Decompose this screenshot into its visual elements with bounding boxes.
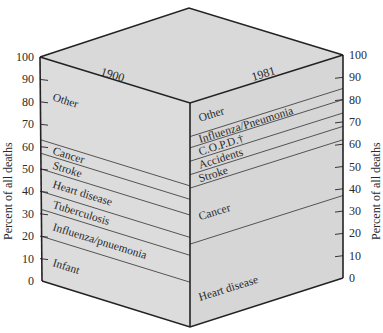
left-axis-tick-label: 20 xyxy=(22,229,34,243)
left-axis-tick-label: 0 xyxy=(28,274,34,288)
right-axis-title: Percent of all deaths xyxy=(369,142,383,240)
left-axis-tick-label: 70 xyxy=(22,117,34,131)
left-axis-tick-label: 90 xyxy=(22,72,34,86)
right-axis-tick-label: 40 xyxy=(349,182,361,196)
right-axis-tick-label: 80 xyxy=(349,93,361,107)
left-axis-tick-label: 40 xyxy=(22,184,34,198)
cube-diagram: InfantInfluenza/pnuemoniaTuberculosisHea… xyxy=(0,0,383,333)
right-axis-tick-label: 50 xyxy=(349,160,361,174)
right-axis-tick-label: 20 xyxy=(349,226,361,240)
right-axis-tick-label: 10 xyxy=(349,249,361,263)
right-axis-tick-label: 60 xyxy=(349,137,361,151)
right-axis-tick-label: 70 xyxy=(349,115,361,129)
right-axis-tick-label: 30 xyxy=(349,204,361,218)
right-axis-tick-label: 90 xyxy=(349,70,361,84)
left-axis-tick-label: 30 xyxy=(22,207,34,221)
left-axis-tick-label: 50 xyxy=(22,162,34,176)
cube-chart: InfantInfluenza/pnuemoniaTuberculosisHea… xyxy=(0,0,383,333)
left-axis-tick-label: 10 xyxy=(22,252,34,266)
right-axis-tick-label: 0 xyxy=(349,271,355,285)
left-axis-tick-label: 100 xyxy=(16,50,34,64)
left-axis-tick-label: 60 xyxy=(22,140,34,154)
left-axis-title: Percent of all deaths xyxy=(1,142,15,240)
right-axis-tick-label: 100 xyxy=(349,48,367,62)
left-axis-tick-label: 80 xyxy=(22,95,34,109)
